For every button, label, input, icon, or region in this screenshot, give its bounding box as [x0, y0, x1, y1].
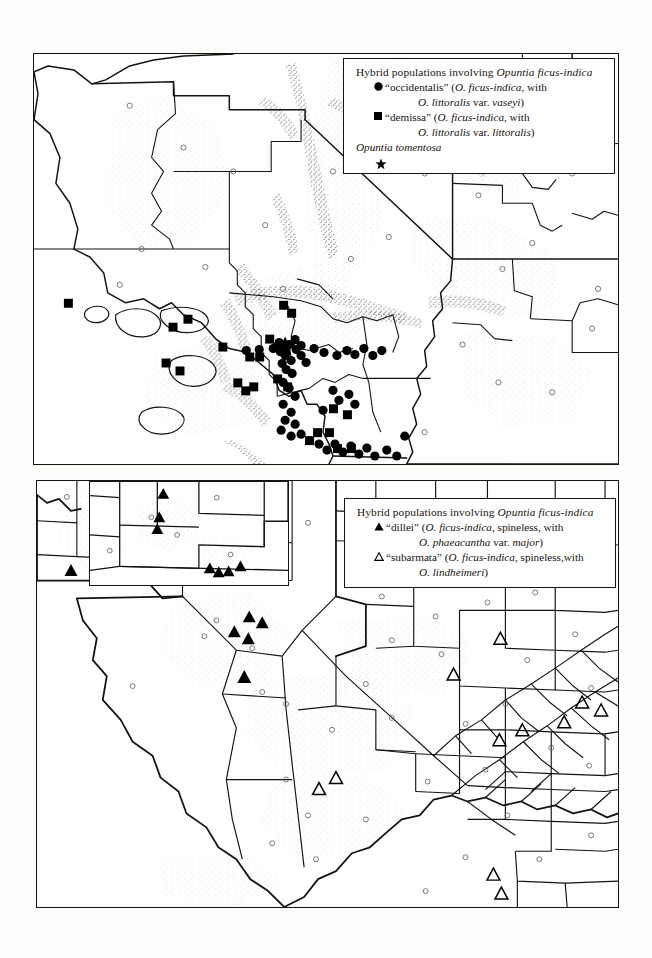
map-panel-bottom: Hybrid populations involving Opuntia fic… — [36, 480, 619, 908]
legend-paren: ) — [539, 536, 543, 548]
legend-top-tomentosa-symbol — [356, 156, 604, 170]
legend-paren: ) — [520, 96, 524, 108]
legend-taxon: O. phaeacantha — [419, 536, 490, 548]
legend-label: “dillei” ( — [386, 521, 425, 533]
filled-triangle-icon — [372, 520, 386, 531]
legend-variety: major — [513, 536, 540, 548]
legend-bottom-entry-dillei: “dillei” (O. ficus-indica, spineless, wi… — [357, 520, 605, 535]
legend-taxon: O. littoralis — [418, 96, 470, 108]
legend-variety: littoralis — [492, 126, 531, 138]
new-mexico-inset — [89, 481, 289, 586]
legend-top-entry-demissa-l2: O. littoralis var. littoralis) — [356, 125, 604, 140]
legend-top: Hybrid populations involving Opuntia fic… — [343, 58, 615, 174]
legend-label: “subarmata” ( — [386, 551, 448, 563]
legend-top-title: Hybrid populations involving Opuntia fic… — [356, 65, 604, 80]
legend-bottom-entry-dillei-l2: O. phaeacantha var. major) — [357, 535, 605, 550]
inset-graphic — [90, 482, 288, 585]
legend-suffix: , spineless, with — [492, 521, 563, 533]
legend-label: “demissa” ( — [385, 111, 438, 123]
filled-circle-icon — [371, 80, 385, 91]
legend-top-entry-occidentalis: “occidentalis” (O. ficus-indica, with — [356, 80, 604, 95]
legend-bottom-title: Hybrid populations involving Opuntia fic… — [357, 505, 605, 520]
legend-rank: var. — [470, 96, 492, 108]
legend-suffix: , with — [504, 111, 529, 123]
legend-paren: ) — [484, 566, 488, 578]
open-triangle-icon — [372, 550, 386, 561]
legend-top-tomentosa-label: Opuntia tomentosa — [356, 140, 604, 155]
legend-taxon: O. ficus-indica — [438, 111, 505, 123]
filled-square-icon — [371, 110, 385, 120]
legend-top-entry-demissa: “demissa” (O. ficus-indica, with — [356, 110, 604, 125]
legend-label: “occidentalis” ( — [385, 81, 455, 93]
legend-suffix: , with — [521, 81, 546, 93]
legend-top-entry-occidentalis-l2: O. littoralis var. vaseyi) — [356, 95, 604, 110]
legend-suffix: , spineless,with — [515, 551, 584, 563]
legend-bottom-entry-subarmata-l2: O. lindheimeri) — [357, 565, 605, 580]
figure-page: Hybrid populations involving Opuntia fic… — [0, 0, 652, 958]
legend-taxon: O. ficus-indica — [425, 521, 492, 533]
legend-rank: var. — [490, 536, 512, 548]
marker-filled-triangle-nm-west — [61, 561, 81, 581]
legend-taxon: O. littoralis — [418, 126, 470, 138]
legend-variety: vaseyi — [492, 96, 520, 108]
filled-star-icon — [374, 156, 388, 170]
legend-bottom-entry-subarmata: “subarmata” (O. ficus-indica, spineless,… — [357, 550, 605, 565]
legend-taxon: O. lindheimeri — [419, 566, 484, 578]
legend-paren: ) — [531, 126, 535, 138]
legend-rank: var. — [470, 126, 492, 138]
legend-bottom: Hybrid populations involving Opuntia fic… — [344, 498, 616, 588]
legend-taxon: O. ficus-indica — [448, 551, 515, 563]
legend-taxon: O. ficus-indica — [455, 81, 522, 93]
map-panel-top: Hybrid populations involving Opuntia fic… — [33, 53, 619, 465]
